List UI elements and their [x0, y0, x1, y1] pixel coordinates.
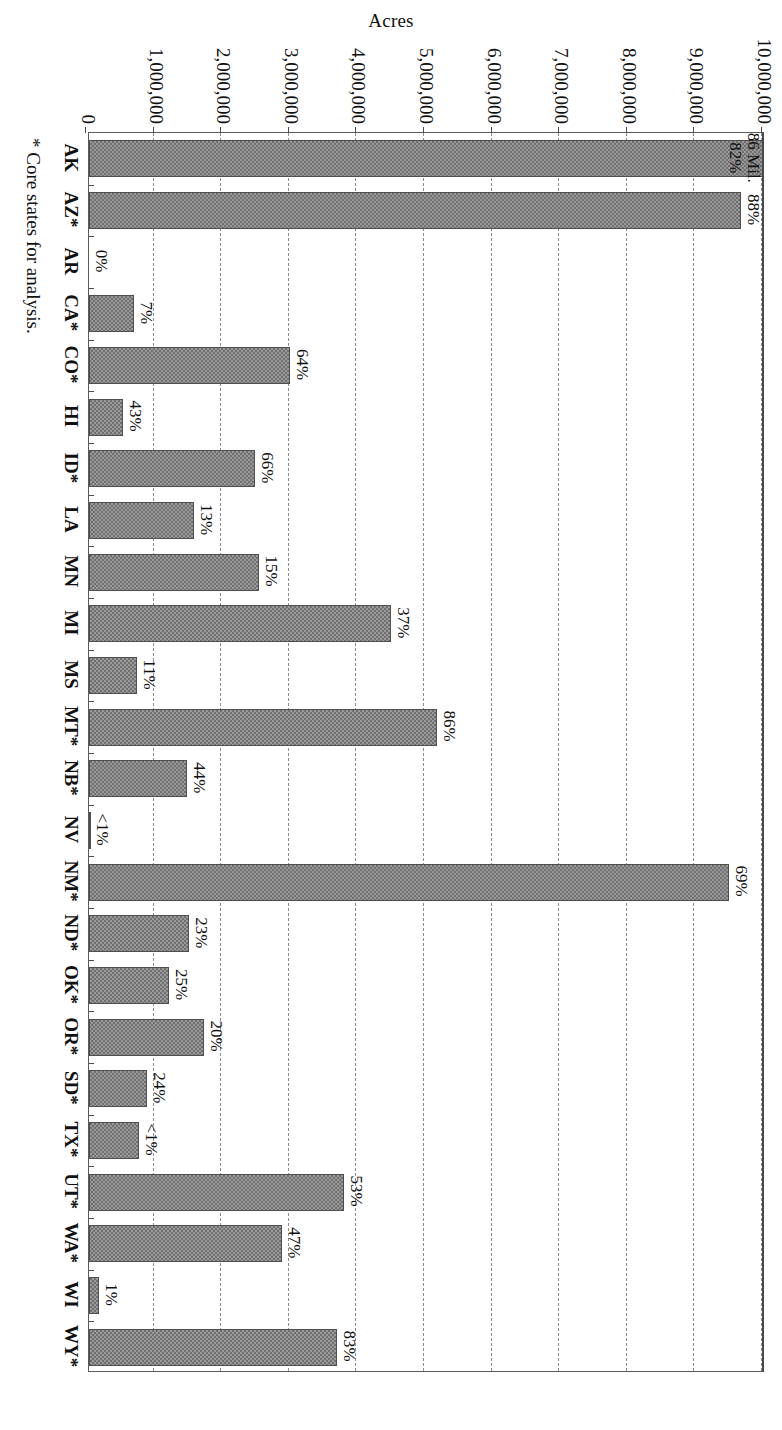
- bar-value-label-ak: 86 Mil.82%: [725, 133, 762, 183]
- bar-value-label-ok: 25%: [172, 969, 190, 1000]
- y-axis-tick-labels: 10,000,0009,000,0008,000,0007,000,0006,0…: [0, 34, 782, 130]
- bar-value-label-ut: 53%: [347, 1176, 365, 1207]
- x-category-label-wa: WA*: [60, 1223, 82, 1263]
- x-category-label-nd: ND*: [60, 914, 82, 951]
- x-tick-mark: [89, 391, 94, 392]
- bar-value-label-nb: 44%: [190, 762, 208, 793]
- bar-value-label-mi: 37%: [394, 607, 412, 638]
- gridline: [423, 133, 424, 1371]
- rotated-figure-stage: Acres 10,000,0009,000,0008,000,0007,000,…: [0, 0, 782, 1430]
- chart-footnote: * Core states for analysis.: [22, 138, 44, 334]
- x-category-label-ok: OK*: [60, 965, 82, 1004]
- x-tick-mark: [89, 495, 94, 496]
- bar-percent-label: 7%: [137, 301, 155, 324]
- bar-value-label-id: 66%: [258, 452, 276, 483]
- bar-percent-label: 11%: [140, 659, 158, 690]
- bar-nv: [89, 812, 91, 849]
- bar-value-label-or: 20%: [207, 1021, 225, 1052]
- x-category-label-wy: WY*: [60, 1325, 82, 1367]
- y-tick-label: 3,000,000: [280, 48, 302, 124]
- y-tick-mark: [288, 127, 289, 133]
- plot-clip: [89, 133, 762, 1371]
- x-tick-mark: [89, 701, 94, 702]
- x-category-label-ca: CA*: [60, 294, 82, 331]
- bar-wy: [89, 1329, 337, 1366]
- y-tick-mark: [693, 127, 694, 133]
- bar-percent-label: 1%: [102, 1283, 120, 1306]
- x-tick-mark: [89, 1115, 94, 1116]
- x-category-label-nv: NV: [60, 816, 82, 843]
- x-tick-mark: [89, 236, 94, 237]
- plot-area: [88, 132, 764, 1372]
- y-tick-mark: [491, 127, 492, 133]
- x-category-label-ak: AK: [60, 144, 82, 173]
- bar-value-label-ms: 11%: [140, 659, 158, 690]
- bar-co: [89, 347, 290, 384]
- bar-chart-figure: Acres 10,000,0009,000,0008,000,0007,000,…: [0, 0, 782, 1430]
- x-tick-mark: [89, 598, 94, 599]
- bar-value-label-az: 88%: [744, 194, 762, 225]
- y-tick-label: 4,000,000: [347, 48, 369, 124]
- bar-value-label-ca: 7%: [137, 301, 155, 324]
- x-tick-mark: [89, 856, 94, 857]
- y-tick-mark: [355, 127, 356, 133]
- bar-ut: [89, 1174, 344, 1211]
- bar-percent-label: 25%: [172, 969, 190, 1000]
- bar-percent-label: 83%: [340, 1331, 358, 1362]
- bar-percent-label: 13%: [197, 504, 215, 535]
- bar-mi: [89, 605, 391, 642]
- y-tick-label: 2,000,000: [212, 48, 234, 124]
- y-tick-mark: [626, 127, 627, 133]
- bar-percent-label: 44%: [190, 762, 208, 793]
- bar-percent-label: 53%: [347, 1176, 365, 1207]
- bar-mn: [89, 554, 259, 591]
- gridline: [626, 133, 627, 1371]
- x-category-label-mt: MT*: [60, 706, 82, 746]
- x-tick-mark: [89, 650, 94, 651]
- x-category-label-ar: AR: [60, 247, 82, 274]
- bar-percent-label: <1%: [142, 1123, 160, 1155]
- bar-hi: [89, 399, 123, 436]
- bar-percent-label: 66%: [258, 452, 276, 483]
- y-tick-mark: [85, 127, 86, 133]
- bar-wi: [89, 1277, 99, 1314]
- bar-nd: [89, 915, 189, 952]
- y-tick-mark: [153, 127, 154, 133]
- y-tick-label: 9,000,000: [685, 48, 707, 124]
- bar-value-label-co: 64%: [293, 349, 311, 380]
- x-category-label-hi: HI: [60, 405, 82, 427]
- y-axis-title-label: Acres: [368, 10, 413, 32]
- bar-percent-label: 24%: [150, 1072, 168, 1103]
- bar-percent-label: 20%: [207, 1021, 225, 1052]
- bar-percent-label: 43%: [126, 401, 144, 432]
- x-tick-mark: [89, 1218, 94, 1219]
- bar-annotation-label: 86 Mil.: [744, 133, 762, 183]
- x-category-label-co: CO*: [60, 346, 82, 384]
- gridline: [558, 133, 559, 1371]
- bar-percent-label: 47%: [286, 1227, 304, 1258]
- y-tick-label: 5,000,000: [415, 48, 437, 124]
- x-tick-mark: [89, 443, 94, 444]
- bar-value-label-tx: <1%: [142, 1123, 160, 1155]
- bar-percent-label: 0%: [92, 250, 110, 273]
- x-tick-mark: [89, 185, 94, 186]
- bar-wa: [89, 1225, 282, 1262]
- x-tick-mark: [89, 1011, 94, 1012]
- y-tick-label: 6,000,000: [483, 48, 505, 124]
- x-category-label-or: OR*: [60, 1017, 82, 1055]
- bar-percent-label: 64%: [293, 349, 311, 380]
- y-axis-title: Acres: [0, 8, 782, 34]
- bar-value-label-nm: 69%: [732, 866, 750, 897]
- x-tick-mark: [89, 340, 94, 341]
- y-tick-label: 0: [77, 115, 99, 125]
- x-category-label-az: AZ*: [60, 192, 82, 228]
- gridline: [491, 133, 492, 1371]
- x-tick-mark: [89, 908, 94, 909]
- bar-percent-label: <1%: [94, 813, 112, 845]
- bar-value-label-wi: 1%: [102, 1283, 120, 1306]
- bar-percent-label: 23%: [192, 917, 210, 948]
- y-tick-label: 1,000,000: [145, 48, 167, 124]
- bar-percent-label: 69%: [732, 866, 750, 897]
- bar-value-label-nv: <1%: [94, 813, 112, 845]
- bar-percent-label: 82%: [725, 133, 743, 183]
